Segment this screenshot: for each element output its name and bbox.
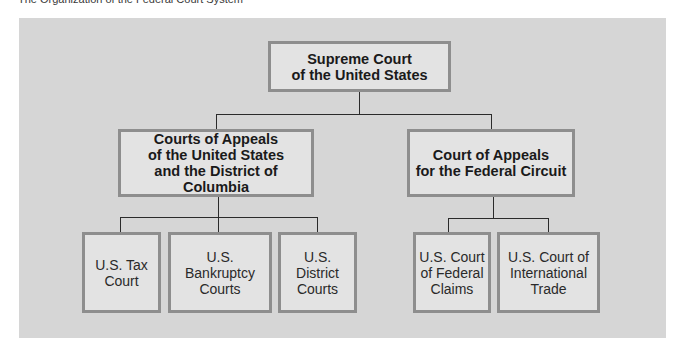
node-label: Supreme Court of the United States [291,51,427,83]
connector-appeals-us-down [218,197,219,217]
node-us-district-courts: U.S. District Courts [278,232,357,313]
connector-right-horizontal [448,218,549,219]
connector-to-appeals-us [216,114,217,129]
connector-to-international-trade [548,218,549,232]
connector-to-bankruptcy [218,217,219,232]
node-us-tax-court: U.S. Tax Court [82,232,161,313]
node-courts-of-appeals-us: Courts of Appeals of the United States a… [118,129,314,197]
node-label: U.S. Tax Court [95,257,148,289]
figure-caption: The Organization of the Federal Court Sy… [18,0,243,5]
node-supreme-court: Supreme Court of the United States [268,41,451,92]
node-label: U.S. Court of Federal Claims [419,249,484,297]
node-us-court-of-federal-claims: U.S. Court of Federal Claims [413,232,491,313]
connector-left-horizontal [120,217,318,218]
connector-to-federal-circuit [491,114,492,129]
connector-to-district [317,217,318,232]
connector-federal-circuit-down [493,197,494,218]
node-us-bankruptcy-courts: U.S. Bankruptcy Courts [168,232,272,313]
node-label: U.S. Bankruptcy Courts [185,249,255,297]
connector-root-down [359,92,360,114]
connector-level2-horizontal [216,114,492,115]
node-label: U.S. District Courts [296,249,339,297]
node-us-court-of-international-trade: U.S. Court of International Trade [497,232,600,313]
node-court-of-appeals-federal-circuit: Court of Appeals for the Federal Circuit [407,129,575,197]
node-label: Courts of Appeals of the United States a… [121,131,311,195]
connector-to-federal-claims [448,218,449,232]
node-label: U.S. Court of International Trade [508,249,589,297]
connector-to-tax-court [120,217,121,232]
node-label: Court of Appeals for the Federal Circuit [416,147,567,179]
